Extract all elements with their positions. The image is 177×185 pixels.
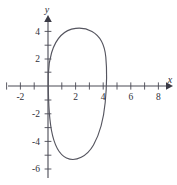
- y-tick-label: -6: [32, 164, 40, 174]
- y-axis-label: y: [44, 4, 50, 15]
- coordinate-plane-plot: -2 2 4 6 8 4 2 -2 -4 -6 x y: [0, 0, 177, 185]
- graph-figure: -2 2 4 6 8 4 2 -2 -4 -6 x y: [0, 0, 177, 185]
- x-tick-label: -2: [16, 92, 24, 102]
- x-axis: [7, 82, 173, 90]
- x-tick-label: 2: [73, 92, 78, 102]
- y-tick-label: -4: [32, 137, 40, 147]
- x-tick-label: 6: [128, 92, 133, 102]
- y-tick-label: 2: [35, 54, 40, 64]
- y-tick-label: -2: [32, 109, 40, 119]
- y-tick-label: 4: [35, 27, 40, 37]
- y-axis-arrow-icon: [44, 15, 52, 22]
- x-tick-label: 4: [101, 92, 106, 102]
- x-tick-label: 8: [156, 92, 161, 102]
- x-axis-label: x: [167, 74, 173, 85]
